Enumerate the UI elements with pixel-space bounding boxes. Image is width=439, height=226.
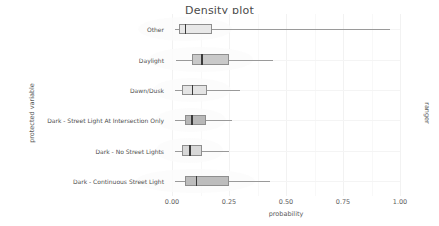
gridline-x-major bbox=[400, 14, 401, 196]
median-line bbox=[189, 145, 190, 155]
y-axis-tick-label: Daylight bbox=[0, 56, 168, 63]
boxplot-box bbox=[185, 115, 206, 125]
median-line bbox=[201, 54, 202, 64]
median-line bbox=[196, 176, 197, 186]
y-axis-tick-label: Dark - Continuous Street Light bbox=[0, 177, 168, 184]
gridline-x-minor bbox=[372, 14, 373, 196]
gridline-x-minor bbox=[258, 14, 259, 196]
x-axis-tick-label: 0.00 bbox=[165, 198, 179, 206]
boxplot-box bbox=[192, 54, 229, 64]
plot-panel bbox=[172, 14, 400, 196]
median-line bbox=[191, 115, 192, 125]
y-axis-tick-label: Other bbox=[0, 26, 168, 33]
y-axis-tick-label: Dawn/Dusk bbox=[0, 86, 168, 93]
x-axis-tick-label: 0.25 bbox=[222, 198, 236, 206]
median-line bbox=[192, 85, 193, 95]
gridline-x-major bbox=[343, 14, 344, 196]
boxplot-box bbox=[182, 145, 202, 155]
boxplot-box bbox=[185, 176, 229, 186]
gridline-x-major bbox=[229, 14, 230, 196]
boxplot-box bbox=[182, 85, 207, 95]
density-plot-chart: Density plot protected variable ranger p… bbox=[0, 0, 439, 226]
right-strip-label: ranger bbox=[423, 102, 431, 124]
x-axis-tick-label: 1.00 bbox=[393, 198, 407, 206]
gridline-x-major bbox=[286, 14, 287, 196]
gridline-x-minor bbox=[315, 14, 316, 196]
y-axis-tick-label: Dark - Street Light At Intersection Only bbox=[0, 117, 168, 124]
x-axis-tick-label: 0.75 bbox=[336, 198, 350, 206]
y-axis-tick-label: Dark - No Street Lights bbox=[0, 147, 168, 154]
median-line bbox=[185, 24, 186, 34]
x-axis-tick-label: 0.50 bbox=[279, 198, 293, 206]
x-axis-title: probability bbox=[172, 210, 400, 218]
gridline-x-major bbox=[172, 14, 173, 196]
